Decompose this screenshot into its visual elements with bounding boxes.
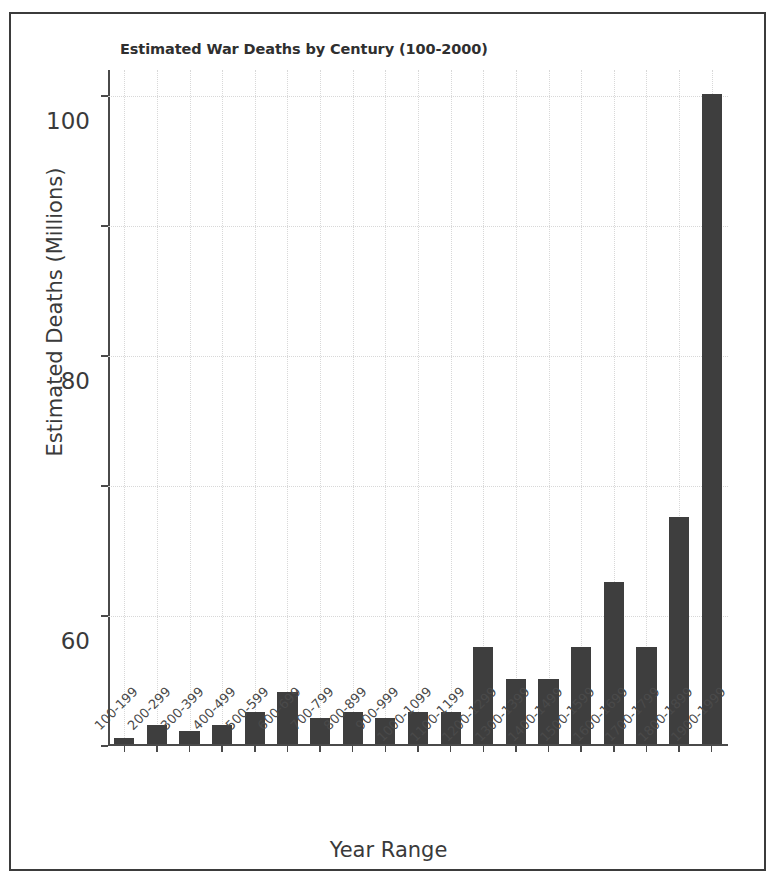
x-tick-mark: [548, 746, 550, 752]
gridline-vertical: [287, 70, 289, 746]
x-tick-mark: [417, 746, 419, 752]
gridline-vertical: [646, 70, 648, 746]
gridline-vertical: [157, 70, 159, 746]
x-tick-mark: [646, 746, 648, 752]
x-axis-label: Year Range: [0, 838, 777, 862]
x-tick-mark: [515, 746, 517, 752]
y-tick-mark: 80: [101, 225, 108, 227]
gridline-vertical: [451, 70, 453, 746]
gridline-vertical: [124, 70, 126, 746]
gridline-vertical: [385, 70, 387, 746]
chart-title: Estimated War Deaths by Century (100-200…: [120, 41, 488, 57]
y-tick-label: 80: [61, 368, 90, 394]
gridline-vertical: [549, 70, 551, 746]
y-tick-mark: 20: [101, 615, 108, 617]
x-tick-mark: [156, 746, 158, 752]
y-axis-label: Estimated Deaths (Millions): [43, 112, 67, 512]
gridline-vertical: [353, 70, 355, 746]
bar: [702, 94, 722, 744]
plot-area: 020406080100: [108, 70, 728, 746]
x-tick-mark: [450, 746, 452, 752]
x-tick-mark: [221, 746, 223, 752]
y-tick-label: 60: [61, 628, 90, 654]
x-tick-mark: [352, 746, 354, 752]
gridline-vertical: [190, 70, 192, 746]
x-tick-mark: [613, 746, 615, 752]
x-tick-mark: [319, 746, 321, 752]
x-tick-mark: [483, 746, 485, 752]
gridline-vertical: [418, 70, 420, 746]
gridline-vertical: [483, 70, 485, 746]
x-tick-mark: [385, 746, 387, 752]
y-tick-mark: 100: [101, 95, 108, 97]
y-tick-label: 100: [46, 108, 90, 134]
gridline-vertical: [516, 70, 518, 746]
x-tick-mark: [124, 746, 126, 752]
gridline-vertical: [222, 70, 224, 746]
y-tick-mark: 60: [101, 355, 108, 357]
gridline-vertical: [581, 70, 583, 746]
x-tick-mark: [287, 746, 289, 752]
x-tick-mark: [189, 746, 191, 752]
x-tick-mark: [580, 746, 582, 752]
y-tick-mark: 40: [101, 485, 108, 487]
x-tick-mark: [678, 746, 680, 752]
gridline-vertical: [255, 70, 257, 746]
x-tick-mark: [254, 746, 256, 752]
x-tick-mark: [711, 746, 713, 752]
gridline-vertical: [320, 70, 322, 746]
